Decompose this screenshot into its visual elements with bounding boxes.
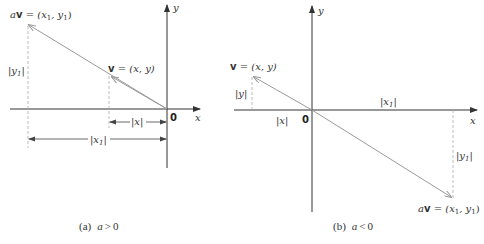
abs-y-label: |y| — [235, 88, 247, 100]
scalar-multiplication-diagram: y x 0 |x| |x1| |y1| av = (x1, y1) v = (x… — [0, 0, 484, 244]
av-label: av = (x1, y1) — [418, 203, 480, 216]
y-axis-label: y — [317, 5, 324, 16]
y-axis-label: y — [172, 2, 179, 13]
abs-x1-label: |x1| — [90, 134, 107, 147]
vector-v — [112, 77, 167, 109]
abs-x-label: |x| — [276, 115, 288, 127]
v-label: v = (x, y) — [108, 63, 155, 74]
v-label: v = (x, y) — [230, 61, 277, 72]
abs-x-label: |x| — [131, 116, 143, 128]
abs-y1-label: |y1| — [456, 150, 473, 163]
x-axis-label: x — [470, 115, 476, 126]
vector-av — [312, 110, 451, 197]
caption-a: (a)a>0 — [79, 220, 119, 233]
figure-a: y x 0 |x| |x1| |y1| av = (x1, y1) v = (x… — [8, 2, 201, 233]
origin-label: 0 — [302, 114, 309, 125]
vector-v — [254, 77, 312, 110]
av-label: av = (x1, y1) — [10, 9, 72, 22]
x-axis-label: x — [195, 112, 201, 123]
origin-label: 0 — [170, 112, 177, 123]
caption-b: (b)a<0 — [333, 220, 374, 233]
figure-b: y x 0 v = (x, y) |y| |x| |x1| |y1| av = … — [230, 5, 480, 233]
abs-x1-label: |x1| — [380, 96, 397, 109]
abs-y1-label: |y1| — [8, 65, 25, 78]
